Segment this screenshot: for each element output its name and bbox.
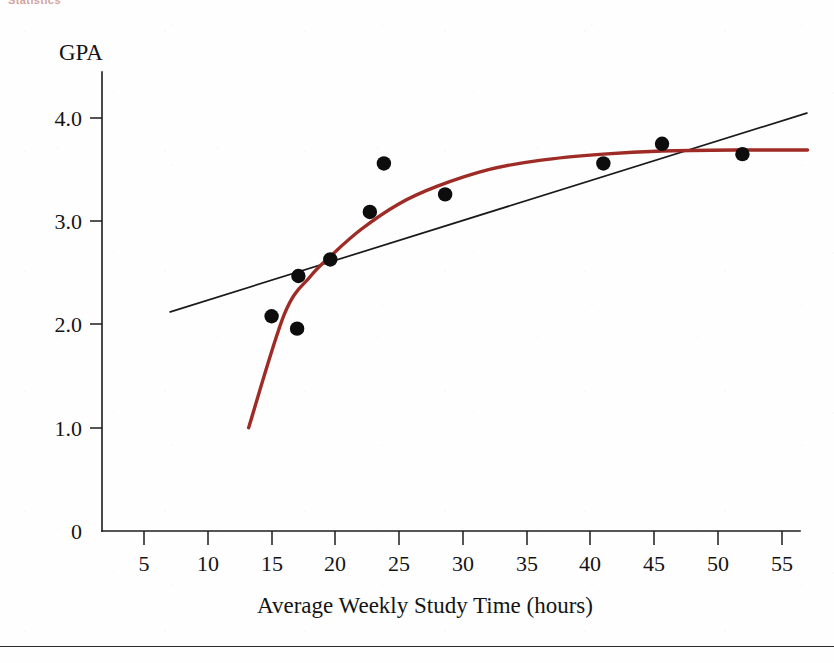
data-point <box>291 269 305 283</box>
y-tick-label-4: 4.0 <box>55 106 83 131</box>
y-axis-tick-labels: 4.0 3.0 2.0 1.0 0 <box>55 106 83 544</box>
y-axis-ticks <box>90 118 102 428</box>
y-axis-label: GPA <box>59 40 103 65</box>
x-tick-label-10: 10 <box>197 551 219 576</box>
x-tick-label-25: 25 <box>388 551 410 576</box>
x-tick-label-35: 35 <box>516 551 538 576</box>
data-point <box>655 137 669 151</box>
x-tick-label-40: 40 <box>579 551 601 576</box>
linear-fit-line <box>170 113 808 312</box>
footer-divider <box>0 646 834 647</box>
data-point <box>377 156 391 170</box>
data-point <box>363 205 377 219</box>
x-axis-tick-labels: 5 10 15 20 25 30 35 40 45 50 55 <box>139 551 794 576</box>
x-tick-label-45: 45 <box>643 551 665 576</box>
y-tick-label-3: 3.0 <box>55 209 83 234</box>
x-tick-label-5: 5 <box>139 551 150 576</box>
axes <box>102 72 800 531</box>
data-point <box>264 309 278 323</box>
x-tick-label-55: 55 <box>771 551 793 576</box>
y-tick-label-2: 2.0 <box>55 312 83 337</box>
data-point <box>596 156 610 170</box>
y-tick-label-0: 0 <box>71 519 82 544</box>
data-point <box>290 321 304 335</box>
logarithmic-fit-curve <box>249 150 808 428</box>
scatter-plot-figure: GPA 4.0 3.0 2.0 1.0 0 <box>0 0 834 663</box>
data-point <box>323 252 337 266</box>
y-tick-label-1: 1.0 <box>55 416 83 441</box>
data-point <box>438 187 452 201</box>
data-point <box>735 147 749 161</box>
x-axis-title: Average Weekly Study Time (hours) <box>257 593 593 618</box>
x-tick-label-50: 50 <box>707 551 729 576</box>
x-tick-label-20: 20 <box>324 551 346 576</box>
x-tick-label-30: 30 <box>452 551 474 576</box>
x-axis-ticks <box>144 531 782 545</box>
x-tick-label-15: 15 <box>261 551 283 576</box>
chart-svg: GPA 4.0 3.0 2.0 1.0 0 <box>0 0 834 663</box>
plot-layer <box>170 113 808 428</box>
figure-page: Statistics GPA 4.0 3.0 2.0 1.0 <box>0 0 834 663</box>
